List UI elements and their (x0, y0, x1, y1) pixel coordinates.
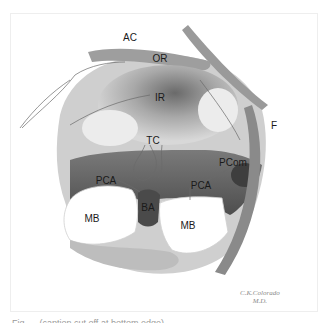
label-ir: IR (155, 93, 165, 103)
label-pcom: PCom (219, 158, 247, 168)
figure-caption: Fig. ... (caption cut off at bottom edge… (12, 316, 318, 323)
label-or: OR (153, 54, 168, 64)
label-tc: TC (146, 136, 159, 146)
label-pca-right: PCA (191, 181, 212, 191)
anatomy-illustration (0, 0, 329, 323)
label-f: F (271, 121, 277, 131)
label-pca-left: PCA (96, 176, 117, 186)
label-mb-left: MB (85, 214, 100, 224)
artist-signature: C.K.Colorado M.D. (240, 290, 280, 305)
label-ba: BA (141, 203, 154, 213)
label-mb-right: MB (181, 221, 196, 231)
mammillary-body-left (64, 186, 138, 244)
label-ac: AC (123, 33, 137, 43)
